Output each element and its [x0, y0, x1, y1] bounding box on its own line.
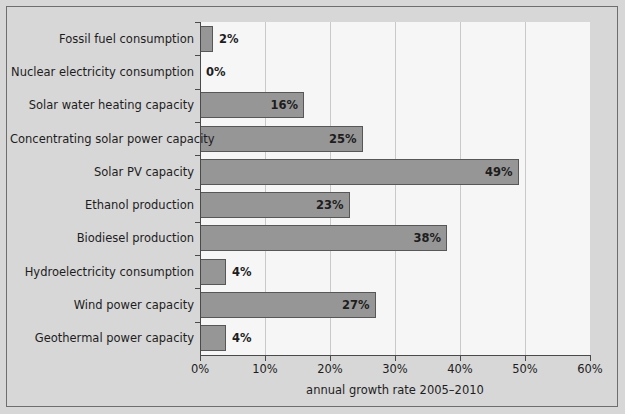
bar-value-label: 23%	[316, 198, 344, 212]
bar-value-label: 2%	[219, 32, 239, 46]
y-tick-mark	[195, 255, 200, 256]
bar-value-label: 4%	[232, 265, 252, 279]
x-tick-mark	[590, 356, 591, 361]
y-axis-line	[200, 22, 201, 356]
x-tick-label: 10%	[252, 362, 278, 376]
gridline	[395, 22, 396, 355]
chart-figure: 2%0%16%25%49%23%38%4%27%4% Fossil fuel c…	[0, 0, 625, 414]
category-label: Solar PV capacity	[10, 165, 200, 179]
x-tick-mark	[460, 356, 461, 361]
bar	[200, 26, 213, 52]
category-label: Geothermal power capacity	[10, 331, 200, 345]
category-label: Concentrating solar power capacity	[10, 132, 200, 146]
bar-value-label: 0%	[206, 65, 226, 79]
category-label: Solar water heating capacity	[10, 98, 200, 112]
x-tick-mark	[525, 356, 526, 361]
gridline	[525, 22, 526, 355]
x-tick-mark	[330, 356, 331, 361]
y-tick-mark	[195, 288, 200, 289]
gridline	[460, 22, 461, 355]
bar	[200, 259, 226, 285]
y-tick-mark	[195, 322, 200, 323]
bar	[200, 225, 447, 251]
y-tick-mark	[195, 122, 200, 123]
y-tick-mark	[195, 22, 200, 23]
x-tick-label: 50%	[512, 362, 538, 376]
x-tick-label: 30%	[382, 362, 408, 376]
y-tick-mark	[195, 222, 200, 223]
x-tick-label: 20%	[317, 362, 343, 376]
bar-value-label: 27%	[342, 298, 370, 312]
category-axis-labels: Fossil fuel consumptionNuclear electrici…	[0, 0, 200, 414]
category-label: Ethanol production	[10, 198, 200, 212]
bar-value-label: 38%	[413, 231, 441, 245]
y-tick-mark	[195, 89, 200, 90]
x-tick-mark	[200, 356, 201, 361]
category-label: Fossil fuel consumption	[10, 32, 200, 46]
bar-value-label: 49%	[485, 165, 513, 179]
bar	[200, 325, 226, 351]
category-label: Nuclear electricity consumption	[10, 65, 200, 79]
bar	[200, 159, 519, 185]
bar-value-label: 4%	[232, 331, 252, 345]
y-tick-mark	[195, 189, 200, 190]
bar-value-label: 16%	[270, 98, 298, 112]
x-tick-label: 40%	[447, 362, 473, 376]
x-tick-mark	[395, 356, 396, 361]
y-tick-mark	[195, 155, 200, 156]
bar-value-label: 25%	[329, 132, 357, 146]
y-tick-mark	[195, 55, 200, 56]
x-tick-mark	[265, 356, 266, 361]
category-label: Hydroelectricity consumption	[10, 265, 200, 279]
x-tick-label: 0%	[191, 362, 209, 376]
x-tick-label: 60%	[577, 362, 603, 376]
category-label: Biodiesel production	[10, 231, 200, 245]
x-axis-title: annual growth rate 2005–2010	[200, 383, 590, 397]
category-label: Wind power capacity	[10, 298, 200, 312]
